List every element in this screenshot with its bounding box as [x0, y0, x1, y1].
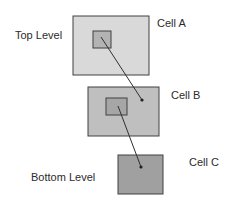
top-level-label: Top Level: [15, 29, 62, 41]
connector-b-to-c-dot: [139, 165, 142, 168]
cell-a-label: Cell A: [157, 17, 186, 29]
connector-a-to-b-dot: [140, 98, 143, 101]
cell-b-instance-box: [106, 98, 127, 115]
cell-b-label: Cell B: [171, 89, 200, 101]
cell-c-box: [118, 155, 163, 194]
cell-a-instance-box: [93, 31, 111, 48]
bottom-level-label: Bottom Level: [31, 171, 95, 183]
cell-c-label: Cell C: [189, 156, 219, 168]
